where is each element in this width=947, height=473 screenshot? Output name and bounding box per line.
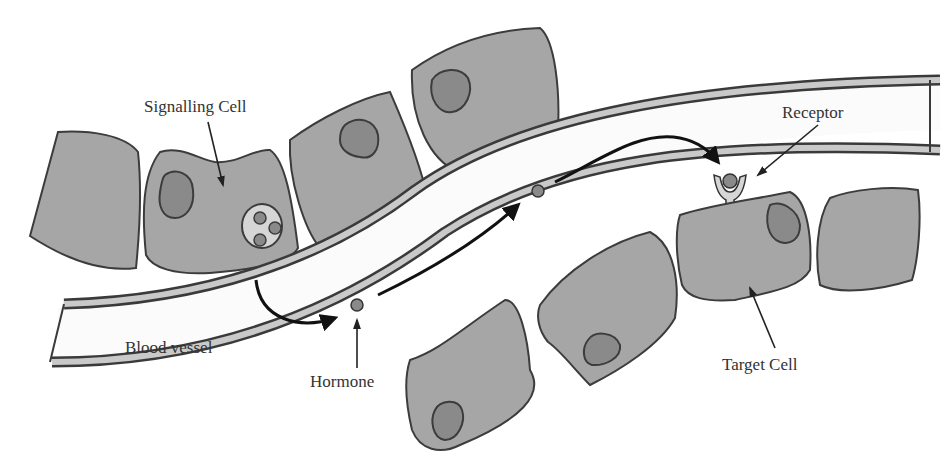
label-hormone: Hormone [310,320,374,391]
hormone-molecule [351,299,363,311]
cell-lower-middle [538,232,677,385]
lower-cell-row [406,188,919,450]
cell-far-left [30,132,140,269]
target-cell-label: Target Cell [722,355,798,374]
receptor-label: Receptor [782,103,844,122]
nucleus [160,172,194,218]
hormone-label: Hormone [310,372,374,391]
signalling-cell [144,150,298,274]
hormone-molecule-2 [532,185,544,197]
signalling-cell-label: Signalling Cell [144,97,247,116]
cell-far-right [817,188,919,290]
secretory-vesicle [242,204,282,248]
endocrine-signaling-diagram: Blood vessel Signalling Cell [0,0,947,473]
target-cell [677,192,811,300]
blood-vessel-label: Blood vessel [125,338,213,357]
cell-lower-left [406,300,534,450]
